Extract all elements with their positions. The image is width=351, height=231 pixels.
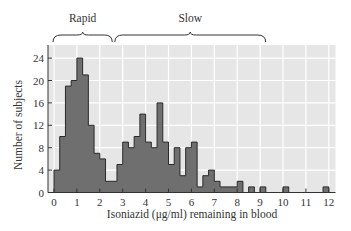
x-tick-label: 4 <box>143 196 149 208</box>
x-tick-label: 8 <box>234 196 240 208</box>
x-tick-label: 10 <box>278 196 290 208</box>
y-tick-label: 16 <box>33 97 45 109</box>
x-tick-label: 1 <box>74 196 80 208</box>
brace-slow <box>115 32 266 42</box>
histogram-chart: RapidSlow 0123456789101112 04812162024 I… <box>0 0 351 231</box>
group-annotations: RapidSlow <box>53 12 266 42</box>
group-label-slow: Slow <box>178 12 202 24</box>
y-tick-label: 0 <box>39 187 45 199</box>
y-axis-label: Number of subjects <box>12 79 25 170</box>
y-tick-label: 12 <box>33 119 44 131</box>
y-tick-label: 24 <box>33 52 45 64</box>
x-tick-label: 3 <box>120 196 126 208</box>
x-tick-label: 12 <box>323 196 334 208</box>
x-tick-label: 6 <box>189 196 195 208</box>
x-axis-label: Isoniazid (μg/ml) remaining in blood <box>107 208 278 221</box>
group-label-rapid: Rapid <box>69 12 97 25</box>
x-tick-label: 11 <box>301 196 312 208</box>
x-tick-label: 7 <box>212 196 218 208</box>
x-tick-label: 5 <box>166 196 172 208</box>
y-tick-label: 8 <box>39 142 45 154</box>
y-tick-label: 20 <box>33 75 45 87</box>
y-tick-label: 4 <box>39 164 45 176</box>
x-tick-label: 2 <box>97 196 103 208</box>
x-tick-label: 9 <box>257 196 263 208</box>
x-tick-label: 0 <box>51 196 57 208</box>
brace-rapid <box>53 32 112 42</box>
